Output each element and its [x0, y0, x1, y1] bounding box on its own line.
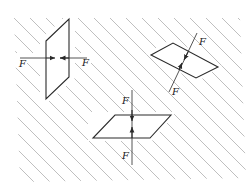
force-label-right-1: F [199, 37, 206, 47]
force-label-right-2: F [172, 87, 179, 97]
force-label-left-2: F [82, 58, 89, 68]
force-label-left-1: F [19, 59, 26, 69]
force-label-bottom-1: F [122, 96, 129, 106]
stress-field-diagram: F F F F F F [0, 0, 252, 193]
force-label-bottom-2: F [122, 151, 129, 161]
